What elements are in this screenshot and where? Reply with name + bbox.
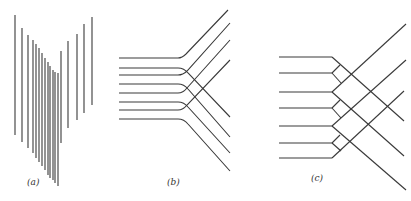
panel-c-label: (c) (311, 173, 323, 183)
bending-line (119, 40, 230, 93)
panel-a-label: (a) (27, 177, 39, 187)
panel-c-crossing-lattice (279, 24, 406, 190)
diamond-segment (332, 108, 341, 118)
wave-refraction-diagram (0, 0, 411, 201)
panel-a-vertical-lines (15, 15, 92, 186)
panel-b-label: (b) (167, 177, 180, 187)
panel-b-bending-lines (119, 10, 230, 171)
diagonal-line (332, 57, 404, 121)
diamond-segment (332, 100, 340, 108)
diamond-segment (332, 73, 341, 83)
diagonal-line (332, 126, 406, 190)
diamond-segment (332, 143, 341, 151)
diagonal-line (332, 60, 406, 126)
bending-line (119, 23, 230, 75)
diamond-segment (332, 135, 340, 143)
diagonal-line (332, 24, 406, 92)
bending-line (119, 119, 230, 171)
bending-line (119, 10, 228, 58)
diamond-segment (332, 65, 340, 73)
